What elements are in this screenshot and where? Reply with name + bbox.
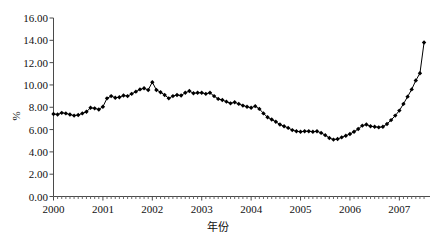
x-axis-tick-label: 2005 xyxy=(281,203,321,215)
x-axis-tick-label: 2001 xyxy=(83,203,123,215)
y-axis-title: % xyxy=(0,106,36,126)
x-axis-tick-labels: 20002001200220032004200520062007 xyxy=(0,0,436,242)
x-axis-tick-label: 2004 xyxy=(231,203,271,215)
x-axis-title: 年份 xyxy=(0,221,436,234)
x-axis-tick-label: 2000 xyxy=(34,203,74,215)
x-axis-tick-label: 2002 xyxy=(132,203,172,215)
x-axis-tick-label: 2003 xyxy=(182,203,222,215)
x-axis-tick-label: 2006 xyxy=(330,203,370,215)
x-axis-tick-label: 2007 xyxy=(379,203,419,215)
unemployment-rate-line-chart: 0.002.004.006.008.0010.0012.0014.0016.00… xyxy=(0,0,436,242)
